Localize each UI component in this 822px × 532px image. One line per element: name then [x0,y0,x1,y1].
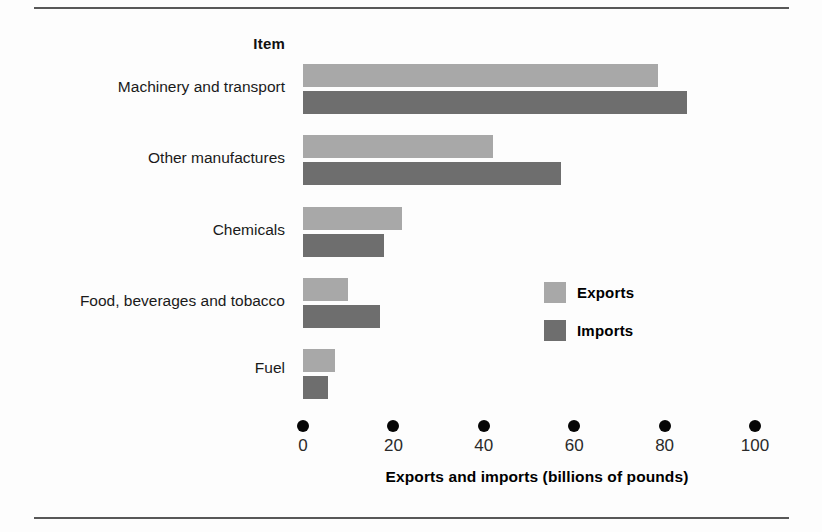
bar-exports-machinery-and-transport [303,64,658,87]
category-label-other-manufactures: Other manufactures [0,149,285,167]
bar-imports-other-manufactures [303,162,561,185]
legend-label-exports: Exports [577,284,634,301]
category-label-fuel: Fuel [0,359,285,377]
x-tick-label-60: 60 [544,436,604,456]
x-tick-label-40: 40 [454,436,514,456]
plot-area [303,64,773,404]
bottom-rule [34,517,789,519]
x-axis: 0 20 40 60 80 100 [303,420,773,510]
bar-exports-fuel [303,349,335,372]
chart-figure: Item Machinery and transport Other manuf… [0,0,822,532]
x-tick-dot-100-icon [749,420,761,432]
bar-imports-machinery-and-transport [303,91,687,114]
x-tick-dot-20-icon [387,420,399,432]
bar-exports-food-beverages-and-tobacco [303,278,348,301]
top-rule [34,7,789,9]
legend-item-exports: Exports [544,281,634,304]
bar-imports-fuel [303,376,328,399]
bar-imports-chemicals [303,234,384,257]
x-tick-dot-60-icon [568,420,580,432]
legend-swatch-imports-icon [544,320,566,341]
x-axis-title: Exports and imports (billions of pounds) [302,468,772,486]
x-tick-dot-40-icon [478,420,490,432]
x-tick-label-80: 80 [635,436,695,456]
legend-item-imports: Imports [544,319,634,342]
category-label-food-beverages-and-tobacco: Food, beverages and tobacco [0,292,285,310]
category-label-chemicals: Chemicals [0,221,285,239]
x-tick-dot-0-icon [297,420,309,432]
x-tick-dot-80-icon [659,420,671,432]
legend-swatch-exports-icon [544,282,566,303]
chart-legend: Exports Imports [544,281,634,357]
item-column-header: Item [0,35,285,52]
bar-imports-food-beverages-and-tobacco [303,305,380,328]
x-tick-label-100: 100 [725,436,785,456]
x-tick-label-0: 0 [273,436,333,456]
x-tick-label-20: 20 [363,436,423,456]
bar-exports-other-manufactures [303,135,493,158]
category-label-machinery-and-transport: Machinery and transport [0,78,285,96]
legend-label-imports: Imports [577,322,633,339]
bar-exports-chemicals [303,207,402,230]
